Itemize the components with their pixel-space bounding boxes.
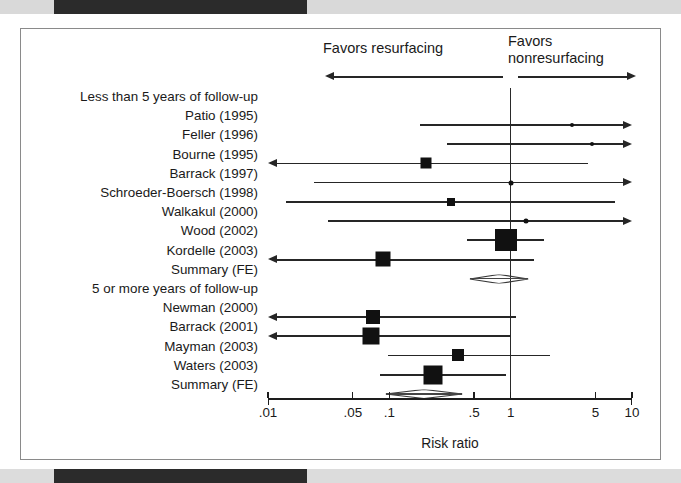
study-row-label: Mayman (2003) xyxy=(8,340,258,353)
study-row-label: Barrack (1997) xyxy=(8,167,258,180)
summary-row-label: Summary (FE) xyxy=(8,263,258,276)
summary-row-label: Summary (FE) xyxy=(8,378,258,391)
favors-nonresurfacing-label-line1: Favors xyxy=(508,33,552,50)
study-label-column: Less than 5 years of follow-upPatio (199… xyxy=(8,0,258,483)
study-row-label: Kordelle (2003) xyxy=(8,244,258,257)
study-row-label: Patio (1995) xyxy=(8,109,258,122)
study-row-label: Wood (2002) xyxy=(8,224,258,237)
group-heading-label: Less than 5 years of follow-up xyxy=(8,90,258,103)
study-row-label: Bourne (1995) xyxy=(8,148,258,161)
study-row-label: Barrack (2001) xyxy=(8,320,258,333)
favors-nonresurfacing-label-line2: nonresurfacing xyxy=(508,50,604,67)
study-row-label: Walkakul (2000) xyxy=(8,205,258,218)
study-row-label: Newman (2000) xyxy=(8,301,258,314)
group-heading-label: 5 or more years of follow-up xyxy=(8,282,258,295)
study-row-label: Waters (2003) xyxy=(8,359,258,372)
study-row-label: Schroeder-Boersch (1998) xyxy=(8,186,258,199)
study-row-label: Feller (1996) xyxy=(8,128,258,141)
favors-resurfacing-label: Favors resurfacing xyxy=(323,40,443,57)
